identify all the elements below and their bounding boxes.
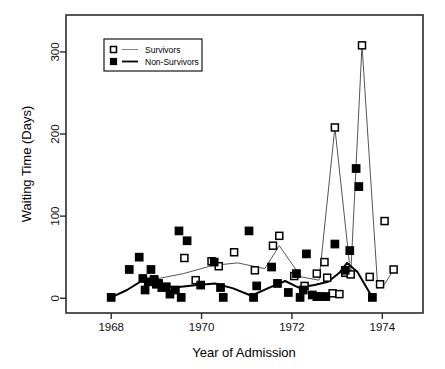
y-tick-label: 100 bbox=[49, 207, 61, 226]
data-point-marker bbox=[324, 274, 331, 281]
data-point-marker bbox=[346, 247, 354, 255]
y-tick-label: 0 bbox=[49, 295, 61, 301]
data-point-marker bbox=[217, 284, 225, 292]
y-tick-label: 200 bbox=[49, 124, 61, 143]
data-point-marker bbox=[313, 270, 320, 277]
data-point-marker bbox=[172, 286, 180, 294]
data-point-marker bbox=[177, 294, 185, 302]
data-point-marker bbox=[336, 291, 343, 298]
data-point-marker bbox=[369, 294, 377, 302]
data-point-marker bbox=[274, 280, 282, 288]
data-point-marker bbox=[331, 240, 339, 248]
non-survivors-points bbox=[107, 165, 376, 301]
data-point-marker bbox=[377, 281, 384, 288]
x-tick-label: 1968 bbox=[98, 321, 124, 333]
y-axis-title: Waiting Time (Days) bbox=[19, 106, 34, 223]
data-point-marker bbox=[296, 294, 304, 302]
y-tick-label: 300 bbox=[49, 42, 61, 61]
data-point-marker bbox=[147, 266, 155, 274]
data-point-marker bbox=[293, 270, 301, 278]
data-point-marker bbox=[183, 237, 191, 245]
data-point-marker bbox=[250, 294, 257, 302]
data-point-marker bbox=[322, 293, 330, 301]
data-point-marker bbox=[253, 282, 261, 290]
data-point-marker bbox=[197, 281, 205, 289]
x-tick-label: 1972 bbox=[279, 321, 305, 333]
data-point-marker bbox=[126, 266, 133, 274]
data-point-marker bbox=[390, 266, 397, 273]
data-point-marker bbox=[269, 242, 276, 249]
data-point-marker bbox=[107, 294, 115, 302]
data-point-marker bbox=[300, 286, 308, 294]
chart-figure: 0100200300 1968197019721974 Survivors No… bbox=[0, 0, 445, 369]
legend-label-survivors: Survivors bbox=[145, 45, 180, 55]
legend-marker-survivors bbox=[111, 47, 117, 53]
data-point-marker bbox=[331, 124, 338, 131]
data-point-marker bbox=[355, 183, 363, 191]
x-axis-ticks: 1968197019721974 bbox=[98, 313, 395, 333]
data-point-marker bbox=[381, 218, 388, 225]
legend-label-non-survivors: Non-Survivors bbox=[145, 57, 199, 67]
data-point-marker bbox=[352, 165, 360, 173]
data-point-marker bbox=[231, 249, 238, 256]
data-point-marker bbox=[303, 250, 311, 258]
data-point-marker bbox=[181, 255, 188, 262]
data-point-marker bbox=[220, 294, 228, 302]
x-axis-title: Year of Admission bbox=[192, 345, 296, 360]
data-point-marker bbox=[210, 258, 218, 266]
data-point-marker bbox=[251, 267, 258, 274]
data-point-marker bbox=[276, 232, 283, 239]
data-point-marker bbox=[135, 253, 143, 261]
data-point-marker bbox=[366, 273, 373, 280]
scatter-plot-svg: 0100200300 1968197019721974 Survivors No… bbox=[0, 0, 445, 369]
y-axis-ticks: 0100200300 bbox=[49, 42, 66, 301]
data-point-marker bbox=[342, 267, 350, 275]
data-point-marker bbox=[285, 289, 293, 297]
x-tick-label: 1974 bbox=[370, 321, 396, 333]
data-point-marker bbox=[358, 42, 365, 49]
data-point-marker bbox=[141, 286, 149, 294]
data-point-marker bbox=[245, 227, 253, 235]
data-point-marker bbox=[163, 283, 171, 291]
legend-marker-non-survivors bbox=[111, 59, 117, 65]
data-point-marker bbox=[268, 263, 276, 271]
legend: Survivors Non-Survivors bbox=[104, 39, 202, 71]
x-tick-label: 1970 bbox=[189, 321, 215, 333]
data-point-marker bbox=[321, 259, 328, 266]
data-point-marker bbox=[175, 227, 183, 235]
